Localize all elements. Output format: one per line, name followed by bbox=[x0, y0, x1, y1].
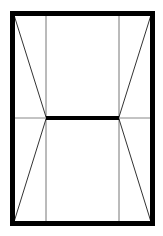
diagram bbox=[0, 0, 163, 236]
